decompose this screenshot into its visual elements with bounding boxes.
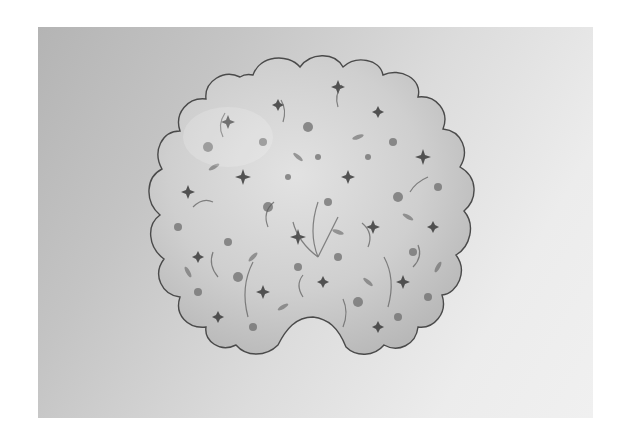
dish-illustration [38,27,593,418]
dish [149,56,474,355]
photograph: Shell-shaped floral dish [38,27,593,418]
